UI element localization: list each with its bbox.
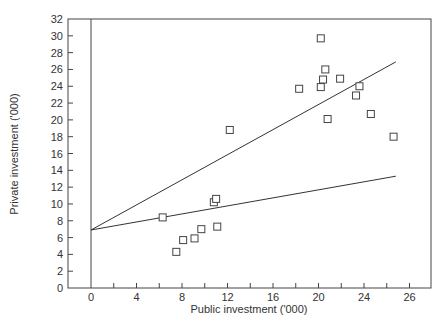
data-point-square xyxy=(356,83,363,90)
y-axis: 02468101214161820222426283032 xyxy=(51,13,73,294)
data-point-square xyxy=(198,226,205,233)
x-tick-label: 8 xyxy=(179,291,185,303)
data-point-square xyxy=(324,116,331,123)
y-tick-label: 22 xyxy=(51,97,63,109)
data-point-square xyxy=(337,75,344,82)
y-tick-label: 14 xyxy=(51,164,63,176)
data-point-square xyxy=(213,195,220,202)
y-tick-label: 18 xyxy=(51,131,63,143)
y-tick-label: 32 xyxy=(51,13,63,25)
y-tick-label: 30 xyxy=(51,30,63,42)
plot-frame xyxy=(68,19,431,288)
y-tick-label: 0 xyxy=(57,282,63,294)
y-tick-label: 6 xyxy=(57,232,63,244)
data-point-square xyxy=(191,235,198,242)
data-point-square xyxy=(322,66,329,73)
y-tick-label: 28 xyxy=(51,47,63,59)
data-points xyxy=(159,35,397,256)
data-point-square xyxy=(353,92,360,99)
data-point-square xyxy=(367,110,374,117)
x-tick-label: 12 xyxy=(221,291,233,303)
y-tick-label: 26 xyxy=(51,63,63,75)
data-point-square xyxy=(317,84,324,91)
y-tick-label: 12 xyxy=(51,181,63,193)
x-tick-label: 4 xyxy=(133,291,139,303)
x-tick-label: 26 xyxy=(403,291,415,303)
x-tick-label: 20 xyxy=(312,291,324,303)
y-tick-label: 4 xyxy=(57,248,63,260)
x-tick-label: 16 xyxy=(267,291,279,303)
y-tick-label: 8 xyxy=(57,215,63,227)
data-point-square xyxy=(173,248,180,255)
y-tick-label: 16 xyxy=(51,148,63,160)
data-point-square xyxy=(390,133,397,140)
x-axis-title: Public investment ('000) xyxy=(190,303,307,315)
x-axis: 0481216202426 xyxy=(88,283,416,303)
fitted-line xyxy=(91,176,396,230)
y-tick-label: 24 xyxy=(51,80,63,92)
data-point-square xyxy=(214,223,221,230)
data-point-square xyxy=(320,76,327,83)
y-tick-label: 20 xyxy=(51,114,63,126)
x-tick-label: 24 xyxy=(358,291,370,303)
x-tick-label: 0 xyxy=(88,291,94,303)
y-tick-label: 10 xyxy=(51,198,63,210)
fitted-lines xyxy=(91,62,396,230)
scatter-chart: 02468101214161820222426283032 0481216202… xyxy=(0,0,446,331)
data-point-square xyxy=(180,237,187,244)
data-point-square xyxy=(296,85,303,92)
fitted-line xyxy=(91,62,396,230)
data-point-square xyxy=(226,126,233,133)
y-axis-title: Private investment ('000) xyxy=(8,93,20,214)
y-tick-label: 2 xyxy=(57,265,63,277)
data-point-square xyxy=(317,35,324,42)
data-point-square xyxy=(159,214,166,221)
